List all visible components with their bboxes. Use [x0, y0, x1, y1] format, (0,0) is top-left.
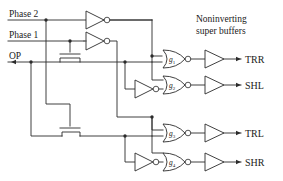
junction-op-branch	[123, 60, 126, 63]
buffer-shl-body	[205, 76, 224, 94]
super-buffer-shl	[205, 76, 241, 94]
wire-op-to-inv-g2	[125, 62, 135, 89]
nor-g1-bubble	[185, 56, 191, 62]
pass-transistor-bottom	[60, 128, 125, 136]
nor-gate-g1: g1	[163, 50, 205, 68]
junction-phase2bar-branch	[150, 54, 153, 57]
wire-net-g2-upper	[152, 56, 163, 80]
inverter-phase2-body	[86, 11, 104, 29]
buffer-shr-body	[205, 153, 224, 171]
annotation-line-1: Noninverting	[196, 14, 247, 24]
super-buffer-shr	[205, 153, 241, 171]
wire-net-g3-g4	[152, 117, 163, 153]
inverter-phase1-bubble	[104, 38, 110, 44]
wire-phase2-to-bottom-gate	[46, 20, 70, 126]
output-label-trl: TRL	[245, 128, 264, 139]
nor-g3-bubble	[185, 130, 191, 136]
super-buffer-trl	[205, 124, 241, 142]
nor-gate-g3: g3	[163, 124, 205, 142]
junction-op-tap	[29, 60, 32, 63]
inverter-phase1	[84, 32, 152, 117]
input-label-phase2: Phase 2	[9, 9, 39, 19]
junction-op-bottom-branch	[123, 134, 126, 137]
wire-op-down-bus	[31, 62, 62, 136]
pass-top-channel	[60, 58, 80, 62]
wire-to-g3-upper	[152, 117, 163, 130]
wire-net-op	[125, 62, 162, 162]
wire-inv-phase1-out	[110, 41, 152, 117]
circuit-diagram: g1 g2 g3 g4	[0, 0, 283, 181]
nor-gate-g4: g4	[163, 153, 205, 171]
inverter-g2-body	[135, 80, 153, 98]
nor-gate-g2: g2	[163, 76, 205, 94]
wire-to-g4-upper	[152, 117, 163, 153]
inverter-g4-body	[135, 153, 153, 171]
inverter-g4-bubble	[153, 159, 159, 165]
shl-arrow-icon	[236, 83, 241, 88]
wire-net-phase2-bar	[152, 20, 162, 56]
input-label-phase1: Phase 1	[9, 30, 39, 40]
inverter-phase1-body	[86, 32, 104, 50]
inverter-phase2	[86, 11, 152, 29]
buffer-trr-body	[205, 50, 224, 68]
pass-bottom-channel	[62, 132, 80, 136]
nor-g2-bubble	[185, 82, 191, 88]
output-label-shl: SHL	[245, 80, 264, 91]
buffer-trl-body	[205, 124, 224, 142]
inverter-phase2-bubble	[104, 17, 110, 23]
wire-op-to-inv-g4	[125, 136, 135, 162]
junction-phase2-tap	[44, 18, 47, 21]
annotation-line-2: super buffers	[196, 26, 246, 36]
trr-arrow-icon	[236, 57, 241, 62]
circuit-canvas: g1 g2 g3 g4	[0, 0, 283, 181]
nor-g4-bubble	[185, 159, 191, 165]
pass-transistor-top	[60, 54, 80, 62]
input-label-op: OP	[9, 51, 21, 61]
junction-phase1-tap	[68, 39, 71, 42]
output-label-trr: TRR	[245, 54, 265, 65]
wire-to-g2-upper	[152, 56, 163, 80]
inverter-g4-input	[135, 153, 163, 171]
super-buffer-trr	[205, 50, 241, 68]
inverter-g2-input	[135, 80, 163, 98]
junction-phase1bar-branch	[150, 115, 153, 118]
output-label-shr: SHR	[245, 157, 265, 168]
trl-arrow-icon	[236, 131, 241, 136]
inverter-g2-bubble	[153, 86, 159, 92]
shr-arrow-icon	[236, 160, 241, 165]
